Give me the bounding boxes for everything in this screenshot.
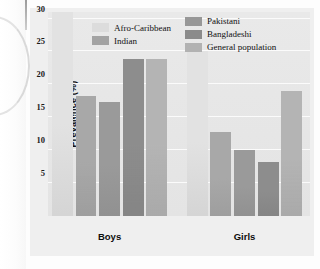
bar-boys-bangladeshi [123, 59, 144, 216]
legend-label: Bangladeshi [207, 29, 252, 39]
legend-item: Indian [92, 36, 171, 46]
legend-label: Indian [114, 36, 137, 46]
legend-label: Afro-Caribbean [114, 23, 171, 33]
chart-area: Prevalence (%) 51015202530 BoysGirls Afr… [30, 8, 314, 256]
y-tick-label: 30 [37, 4, 46, 14]
y-tick-label: 25 [37, 36, 46, 46]
chart-legend: Afro-CaribbeanIndian PakistaniBangladesh… [92, 16, 276, 52]
group-label-boys: Boys [98, 231, 121, 242]
bar-boys-pakistani [99, 102, 120, 216]
legend-item: General population [185, 42, 276, 52]
y-tick-label: 10 [37, 135, 46, 145]
legend-item: Pakistani [185, 16, 276, 26]
legend-column-left: Afro-CaribbeanIndian [92, 23, 171, 46]
bar-girls-indian [210, 132, 231, 216]
legend-item: Afro-Caribbean [92, 23, 171, 33]
legend-item: Bangladeshi [185, 29, 276, 39]
y-tick-label: 5 [41, 168, 45, 178]
legend-swatch-icon [185, 17, 202, 26]
y-tick-label: 20 [37, 69, 46, 79]
legend-swatch-icon [185, 30, 202, 39]
bar-boys-indian [76, 96, 97, 216]
group-label-girls: Girls [234, 231, 256, 242]
bar-girls-pakistani [234, 150, 255, 216]
bar-boys-afro-caribbean [52, 12, 73, 216]
legend-swatch-icon [92, 36, 109, 45]
legend-label: General population [207, 42, 276, 52]
bar-girls-afro-caribbean [187, 51, 208, 216]
y-tick-label: 15 [37, 102, 46, 112]
bar-girls-general-population [281, 91, 302, 216]
scan-edge-line [25, 0, 27, 30]
legend-label: Pakistani [207, 16, 240, 26]
legend-swatch-icon [185, 43, 202, 52]
bar-boys-general-population [146, 59, 167, 216]
legend-column-right: PakistaniBangladeshiGeneral population [185, 16, 276, 52]
bar-girls-bangladeshi [258, 162, 279, 216]
legend-swatch-icon [92, 23, 109, 32]
figure-container: Prevalence (%) 51015202530 BoysGirls Afr… [0, 0, 320, 269]
